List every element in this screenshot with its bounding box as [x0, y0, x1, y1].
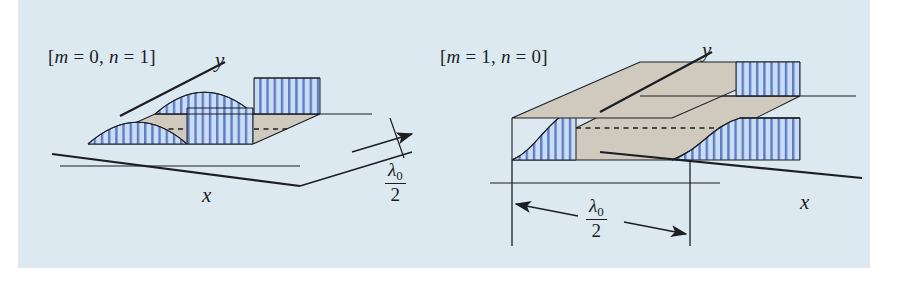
- right-mode-bracket-close: ]: [541, 46, 548, 67]
- right-half-wavelength-dimension: λ0 2: [586, 196, 607, 240]
- right-mode-m-symbol: m: [447, 46, 461, 67]
- right-dimension-arrow-left: [516, 204, 578, 216]
- right-mode-comma: ,: [491, 46, 501, 67]
- right-lambda-subscript: 0: [597, 204, 603, 219]
- right-mode-eq2: =: [511, 46, 532, 67]
- right-mode-eq1: =: [460, 46, 481, 67]
- right-mode-n-symbol: n: [501, 46, 511, 67]
- right-mode-m-value: 1: [481, 46, 491, 67]
- right-lambda-symbol: λ: [589, 195, 597, 216]
- right-y-axis-label: y: [702, 38, 711, 63]
- right-dimension-numerator: λ0: [586, 196, 607, 219]
- right-dimension-arrow-right: [624, 222, 686, 234]
- right-panel-drawing: [0, 0, 905, 288]
- right-mode-label: [m = 1, n = 0]: [440, 46, 548, 68]
- right-dimension-denominator: 2: [586, 219, 607, 240]
- right-mode-n-value: 0: [531, 46, 541, 67]
- right-x-axis-label: x: [800, 190, 809, 215]
- waveguide-mode-figure: [m = 0, n = 1] y x λ0 2: [0, 0, 905, 288]
- right-waveguide-group: [490, 52, 862, 246]
- right-far-end-field-hatch: [736, 62, 800, 96]
